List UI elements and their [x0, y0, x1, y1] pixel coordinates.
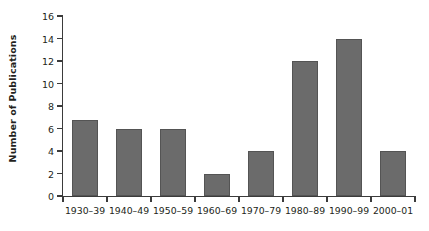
y-axis-tick-label: 6: [48, 123, 54, 134]
y-axis-tick-label: 12: [42, 56, 54, 67]
y-axis-tick-label: 10: [42, 78, 54, 89]
bar: [116, 129, 142, 197]
y-axis-tick-label: 0: [48, 191, 54, 202]
x-axis-tick-mark: [370, 196, 371, 202]
x-axis-tick-label: 1990–99: [327, 205, 371, 216]
x-axis-tick-mark: [238, 196, 239, 202]
x-axis-tick-mark: [194, 196, 195, 202]
x-axis-tick-label: 1950–59: [151, 205, 195, 216]
y-axis-tick-label: 16: [42, 11, 54, 22]
x-axis-tick-mark: [326, 196, 327, 202]
y-axis-tick-label: 2: [48, 168, 54, 179]
bar: [72, 120, 98, 197]
bar-chart-figure: Number of Publications 0246810121416 193…: [0, 0, 429, 231]
x-axis-tick-label: 1970–79: [239, 205, 283, 216]
y-axis-tick-label: 14: [42, 33, 54, 44]
x-axis-tick-label: 1930–39: [63, 205, 107, 216]
bar: [292, 61, 318, 196]
x-axis-tick-labels: 1930–391940–491950–591960–691970–791980–…: [63, 205, 415, 221]
x-axis-tick-label: 2000–01: [371, 205, 415, 216]
bars-layer: [63, 16, 415, 196]
y-axis-title-label: Number of Publications: [8, 34, 19, 162]
y-axis-tick-label: 4: [48, 146, 54, 157]
bar: [380, 151, 406, 196]
bar: [336, 39, 362, 197]
y-axis-tick-label: 8: [48, 101, 54, 112]
x-axis-tick-mark: [62, 196, 63, 202]
y-axis-title: Number of Publications: [0, 0, 26, 196]
bar: [248, 151, 274, 196]
bar: [160, 129, 186, 197]
plot-area: 0246810121416: [63, 16, 415, 196]
x-axis-tick-mark: [282, 196, 283, 202]
x-axis-tick-label: 1980–89: [283, 205, 327, 216]
x-axis-tick-label: 1940–49: [107, 205, 151, 216]
x-axis-tick-mark: [414, 196, 415, 202]
x-axis-tick-mark: [150, 196, 151, 202]
x-axis-tick-label: 1960–69: [195, 205, 239, 216]
x-axis-tick-mark: [106, 196, 107, 202]
x-axis-ticks: [63, 196, 415, 204]
bar: [204, 174, 230, 197]
